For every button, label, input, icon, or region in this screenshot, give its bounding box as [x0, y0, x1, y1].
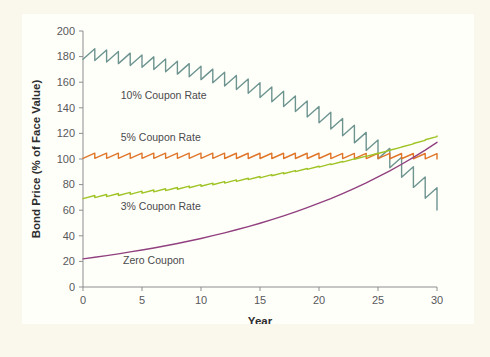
series-line — [83, 136, 437, 199]
y-tick-label: 200 — [57, 25, 75, 37]
y-tick-label: 160 — [57, 76, 75, 88]
y-tick-label: 120 — [57, 127, 75, 139]
y-tick-label: 40 — [63, 230, 75, 242]
series-line — [83, 49, 437, 210]
chart-panel: 020406080100120140160180200051015202530Y… — [22, 14, 474, 324]
x-tick-label: 30 — [431, 294, 443, 306]
x-tick-label: 10 — [195, 294, 207, 306]
x-tick-label: 0 — [80, 294, 86, 306]
x-tick-label: 15 — [254, 294, 266, 306]
bond-price-chart: 020406080100120140160180200051015202530Y… — [22, 14, 474, 324]
x-axis-title: Year — [248, 315, 273, 324]
y-axis-title: Bond Price (% of Face Value) — [30, 80, 42, 239]
x-tick-label: 20 — [313, 294, 325, 306]
series-annotation: 5% Coupon Rate — [121, 131, 201, 143]
y-tick-label: 0 — [69, 281, 75, 293]
y-tick-label: 60 — [63, 204, 75, 216]
figure-container: 020406080100120140160180200051015202530Y… — [0, 0, 490, 357]
x-tick-label: 5 — [139, 294, 145, 306]
x-tick-label: 25 — [372, 294, 384, 306]
series-annotation: Zero Coupon — [123, 254, 184, 266]
y-tick-label: 100 — [57, 153, 75, 165]
series-annotation: 3% Coupon Rate — [121, 200, 201, 212]
y-tick-label: 140 — [57, 102, 75, 114]
series-annotation: 10% Coupon Rate — [121, 89, 207, 101]
y-tick-label: 180 — [57, 50, 75, 62]
y-tick-label: 80 — [63, 178, 75, 190]
y-tick-label: 20 — [63, 255, 75, 267]
